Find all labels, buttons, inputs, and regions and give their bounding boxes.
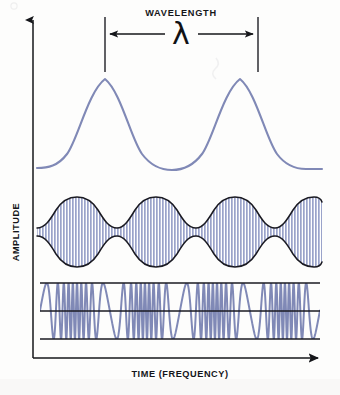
lambda-symbol: λ	[172, 16, 190, 51]
waveform-diagram: AMPLITUDE TIME (FREQUENCY) WAVELENGTH λ	[0, 0, 340, 395]
waveform-figure: AMPLITUDE TIME (FREQUENCY) WAVELENGTH λ	[0, 0, 340, 395]
am-wave-panel	[37, 197, 322, 267]
fm-wave-panel	[40, 283, 320, 339]
carrier-sine-wave-path	[37, 79, 322, 170]
wavelength-annotation: WAVELENGTH λ	[105, 8, 258, 72]
am-envelope-fill	[37, 197, 322, 267]
scan-artifacts	[0, 3, 340, 395]
carrier-sine-wave-panel	[37, 79, 322, 170]
y-axis-label: AMPLITUDE	[11, 203, 21, 262]
x-axis-label: TIME (FREQUENCY)	[131, 369, 228, 379]
